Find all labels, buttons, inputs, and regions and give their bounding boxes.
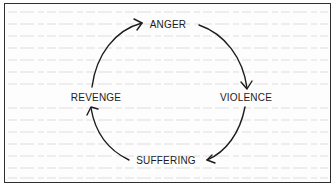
- node-revenge: REVENGE: [71, 93, 121, 103]
- node-violence: VIOLENCE: [220, 93, 272, 103]
- arrow-suffering-to-revenge: [87, 107, 129, 160]
- node-anger: ANGER: [150, 20, 187, 30]
- node-suffering: SUFFERING: [136, 156, 196, 166]
- arrow-violence-to-suffering: [207, 107, 245, 163]
- arrow-anger-to-violence: [199, 25, 252, 89]
- arrow-revenge-to-anger: [92, 19, 142, 87]
